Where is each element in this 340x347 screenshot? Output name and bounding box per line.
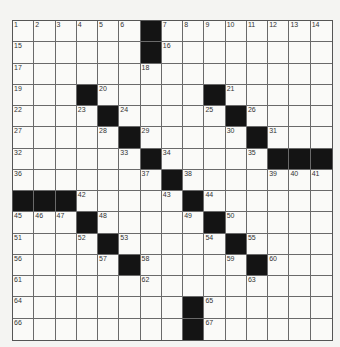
grid-cell[interactable]: 10 <box>226 21 247 42</box>
grid-cell[interactable] <box>34 170 55 191</box>
grid-cell[interactable] <box>98 64 119 85</box>
grid-cell[interactable] <box>77 127 98 148</box>
grid-cell[interactable] <box>162 319 183 340</box>
grid-cell[interactable] <box>311 212 332 233</box>
grid-cell[interactable] <box>162 106 183 127</box>
grid-cell[interactable]: 48 <box>98 212 119 233</box>
grid-cell[interactable]: 55 <box>247 234 268 255</box>
grid-cell[interactable]: 21 <box>226 85 247 106</box>
grid-cell[interactable]: 60 <box>268 255 289 276</box>
grid-cell[interactable] <box>289 276 310 297</box>
grid-cell[interactable]: 54 <box>204 234 225 255</box>
grid-cell[interactable]: 46 <box>34 212 55 233</box>
grid-cell[interactable] <box>204 255 225 276</box>
grid-cell[interactable] <box>226 64 247 85</box>
grid-cell[interactable]: 51 <box>13 234 34 255</box>
grid-cell[interactable] <box>226 297 247 318</box>
grid-cell[interactable] <box>311 319 332 340</box>
grid-cell[interactable] <box>162 255 183 276</box>
grid-cell[interactable] <box>289 127 310 148</box>
grid-cell[interactable] <box>289 85 310 106</box>
grid-cell[interactable] <box>119 85 140 106</box>
grid-cell[interactable] <box>77 255 98 276</box>
grid-cell[interactable] <box>226 149 247 170</box>
grid-cell[interactable] <box>311 106 332 127</box>
grid-cell[interactable]: 39 <box>268 170 289 191</box>
grid-cell[interactable] <box>289 234 310 255</box>
grid-cell[interactable] <box>119 319 140 340</box>
grid-cell[interactable]: 16 <box>162 42 183 63</box>
grid-cell[interactable] <box>183 127 204 148</box>
grid-cell[interactable] <box>289 42 310 63</box>
grid-cell[interactable] <box>247 64 268 85</box>
grid-cell[interactable] <box>56 127 77 148</box>
grid-cell[interactable]: 67 <box>204 319 225 340</box>
grid-cell[interactable]: 36 <box>13 170 34 191</box>
grid-cell[interactable] <box>162 297 183 318</box>
grid-cell[interactable]: 56 <box>13 255 34 276</box>
grid-cell[interactable] <box>98 319 119 340</box>
grid-cell[interactable] <box>204 42 225 63</box>
grid-cell[interactable] <box>204 149 225 170</box>
grid-cell[interactable]: 23 <box>77 106 98 127</box>
grid-cell[interactable] <box>34 149 55 170</box>
grid-cell[interactable] <box>268 42 289 63</box>
grid-cell[interactable] <box>183 255 204 276</box>
grid-cell[interactable] <box>34 85 55 106</box>
grid-cell[interactable] <box>56 170 77 191</box>
grid-cell[interactable]: 34 <box>162 149 183 170</box>
grid-cell[interactable] <box>141 106 162 127</box>
grid-cell[interactable]: 37 <box>141 170 162 191</box>
grid-cell[interactable]: 13 <box>289 21 310 42</box>
grid-cell[interactable] <box>162 64 183 85</box>
grid-cell[interactable] <box>268 297 289 318</box>
grid-cell[interactable] <box>311 64 332 85</box>
grid-cell[interactable] <box>98 170 119 191</box>
grid-cell[interactable] <box>162 85 183 106</box>
grid-cell[interactable] <box>119 191 140 212</box>
grid-cell[interactable] <box>204 276 225 297</box>
grid-cell[interactable]: 8 <box>183 21 204 42</box>
grid-cell[interactable] <box>56 297 77 318</box>
grid-cell[interactable] <box>226 42 247 63</box>
grid-cell[interactable] <box>162 234 183 255</box>
grid-cell[interactable]: 1 <box>13 21 34 42</box>
grid-cell[interactable]: 49 <box>183 212 204 233</box>
grid-cell[interactable] <box>34 276 55 297</box>
grid-cell[interactable] <box>311 297 332 318</box>
grid-cell[interactable] <box>247 212 268 233</box>
grid-cell[interactable] <box>56 85 77 106</box>
grid-cell[interactable] <box>34 127 55 148</box>
grid-cell[interactable]: 65 <box>204 297 225 318</box>
grid-cell[interactable] <box>162 127 183 148</box>
grid-cell[interactable]: 43 <box>162 191 183 212</box>
grid-cell[interactable]: 45 <box>13 212 34 233</box>
grid-cell[interactable] <box>56 42 77 63</box>
grid-cell[interactable]: 35 <box>247 149 268 170</box>
grid-cell[interactable] <box>34 42 55 63</box>
grid-cell[interactable]: 33 <box>119 149 140 170</box>
grid-cell[interactable]: 61 <box>13 276 34 297</box>
grid-cell[interactable]: 2 <box>34 21 55 42</box>
grid-cell[interactable] <box>247 85 268 106</box>
grid-cell[interactable]: 28 <box>98 127 119 148</box>
grid-cell[interactable] <box>56 255 77 276</box>
grid-cell[interactable] <box>289 64 310 85</box>
grid-cell[interactable] <box>247 297 268 318</box>
grid-cell[interactable]: 27 <box>13 127 34 148</box>
grid-cell[interactable] <box>183 276 204 297</box>
grid-cell[interactable] <box>183 106 204 127</box>
grid-cell[interactable] <box>247 319 268 340</box>
grid-cell[interactable]: 17 <box>13 64 34 85</box>
grid-cell[interactable]: 50 <box>226 212 247 233</box>
grid-cell[interactable] <box>247 42 268 63</box>
grid-cell[interactable] <box>34 297 55 318</box>
grid-cell[interactable]: 63 <box>247 276 268 297</box>
grid-cell[interactable] <box>77 42 98 63</box>
grid-cell[interactable]: 5 <box>98 21 119 42</box>
grid-cell[interactable] <box>34 106 55 127</box>
grid-cell[interactable] <box>183 85 204 106</box>
grid-cell[interactable]: 4 <box>77 21 98 42</box>
grid-cell[interactable] <box>183 64 204 85</box>
grid-cell[interactable] <box>268 106 289 127</box>
